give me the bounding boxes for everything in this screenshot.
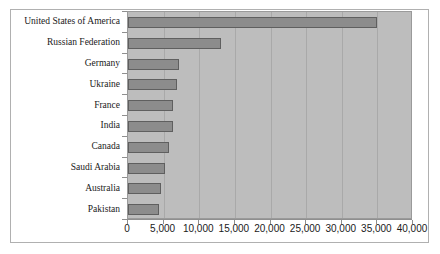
y-axis-label: India [100,120,120,130]
x-axis-tick-labels: 05,00010,00015,00020,00025,00030,00035,0… [0,223,440,239]
x-axis-tick-label: 5,000 [150,223,175,234]
gridline [306,12,307,218]
plot-area [127,11,412,219]
y-axis-label: Saudi Arabia [71,162,120,172]
y-axis-label: Canada [92,141,121,151]
gridline [377,12,378,218]
bar [128,38,221,49]
x-axis-tick-label: 25,000 [290,223,321,234]
x-axis-tick-label: 35,000 [361,223,392,234]
y-axis-label: France [94,100,120,110]
y-axis-label: United States of America [24,16,120,26]
y-axis-label: Russian Federation [47,37,120,47]
bar [128,204,159,215]
x-axis-tick-label: 20,000 [254,223,285,234]
bar [128,100,173,111]
bar [128,142,169,153]
y-axis-label: Australia [85,183,120,193]
y-axis-label: Ukraine [89,79,120,89]
y-axis-labels: United States of AmericaRussian Federati… [12,11,124,219]
bar [128,163,165,174]
x-axis-tick-label: 10,000 [183,223,214,234]
x-axis-tick-label: 0 [124,223,130,234]
x-axis-tick-label: 40,000 [397,223,428,234]
x-axis-tick-label: 30,000 [325,223,356,234]
bar [128,183,161,194]
gridline [271,12,272,218]
bar [128,79,177,90]
bar [128,121,173,132]
y-axis-label: Germany [85,58,120,68]
bar-chart-figure: United States of AmericaRussian Federati… [0,0,440,254]
bar [128,59,179,70]
bar [128,17,377,28]
gridline [342,12,343,218]
gridline [235,12,236,218]
x-axis-tick-label: 15,000 [219,223,250,234]
y-axis-label: Pakistan [88,204,120,214]
